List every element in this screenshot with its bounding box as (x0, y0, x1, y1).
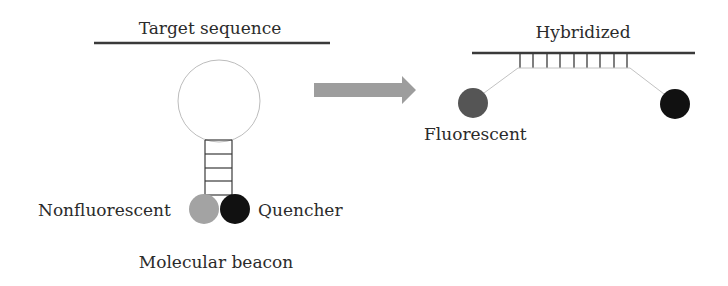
quencher-dot-separated (660, 89, 690, 119)
nonfluorescent-label: Nonfluorescent (38, 200, 171, 220)
transition-arrow-icon (314, 76, 416, 104)
molecular-beacon-caption: Molecular beacon (139, 252, 294, 272)
nonfluorescent-dot (189, 194, 219, 224)
beacon-stem (205, 140, 232, 196)
fluorescent-label: Fluorescent (424, 124, 527, 144)
right-linker (630, 68, 664, 94)
hybridization-ticks (520, 53, 627, 68)
left-panel: Target sequence Nonfluorescent Quencher … (38, 18, 343, 272)
left-linker (484, 68, 518, 93)
molecular-beacon-diagram: Target sequence Nonfluorescent Quencher … (0, 0, 728, 286)
quencher-label: Quencher (258, 200, 343, 220)
beacon-loop (178, 60, 260, 142)
target-sequence-label: Target sequence (139, 18, 282, 38)
hybridized-label: Hybridized (535, 22, 630, 42)
right-panel: Hybridized Fluorescent (424, 22, 695, 144)
fluorescent-dot (458, 88, 488, 118)
quencher-dot (220, 194, 250, 224)
